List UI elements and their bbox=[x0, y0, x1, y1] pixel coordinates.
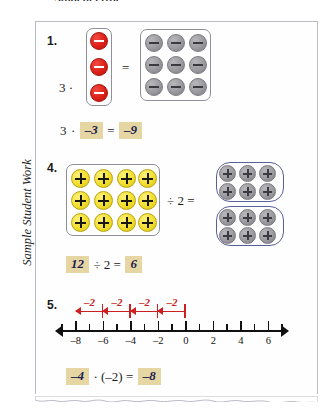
yellow-plus-counter bbox=[71, 169, 90, 188]
number-line-minor-tick bbox=[144, 324, 146, 331]
torn-edge-icon bbox=[35, 396, 318, 402]
red-minus-counter bbox=[90, 58, 108, 76]
number-line-tick-label: 4 bbox=[238, 335, 243, 346]
number-line-minor-tick bbox=[281, 324, 283, 331]
gray-plus-counter bbox=[239, 183, 256, 200]
gray-minus-counter bbox=[167, 78, 185, 96]
red-minus-counter bbox=[90, 32, 108, 50]
gray-minus-counter bbox=[167, 34, 185, 52]
yellow-plus-counter bbox=[94, 169, 113, 188]
number-line-tick-label: –4 bbox=[126, 335, 137, 346]
problem4-answer-second: 6 bbox=[125, 256, 142, 273]
gray-plus-counter bbox=[259, 209, 276, 226]
yellow-plus-counter bbox=[71, 191, 90, 210]
problem4-answer-first: 12 bbox=[66, 256, 89, 273]
number-line-minor-tick bbox=[254, 324, 256, 331]
number-line-minor-tick bbox=[89, 324, 91, 331]
number-line-major-tick bbox=[213, 321, 215, 332]
problem1-equation: 3 · –3 = –9 bbox=[60, 121, 142, 139]
jump-tail-tick bbox=[102, 304, 103, 318]
gray-minus-counter bbox=[145, 78, 163, 96]
yellow-plus-counter bbox=[138, 169, 157, 188]
gray-plus-counter bbox=[219, 227, 236, 244]
number-line-jump-label: –2 bbox=[112, 296, 123, 308]
gray-minus-counter bbox=[189, 56, 207, 74]
number-line-minor-tick bbox=[226, 324, 228, 331]
gray-minus-counter bbox=[167, 56, 185, 74]
number-line-major-tick bbox=[185, 321, 187, 332]
gray-plus-counter bbox=[219, 165, 236, 182]
gray-minus-counter bbox=[145, 34, 163, 52]
gray-plus-counter bbox=[219, 183, 236, 200]
number-line-tick-label: 2 bbox=[211, 335, 216, 346]
yellow-plus-counter bbox=[71, 213, 90, 232]
number-line-minor-tick bbox=[171, 324, 173, 331]
problem1-eq-equals: = bbox=[107, 123, 114, 138]
jump-arrowhead-icon bbox=[75, 307, 81, 315]
yellow-plus-counter bbox=[117, 213, 136, 232]
page-top-heading: Student error. bbox=[54, 0, 122, 1]
gray-plus-counter bbox=[239, 209, 256, 226]
number-line-major-tick bbox=[268, 321, 270, 332]
number-line-minor-tick bbox=[116, 324, 118, 331]
sample-student-work-caption: Sample Student Work bbox=[20, 133, 35, 293]
problem4-eq-printed: ÷ 2 = bbox=[93, 257, 120, 272]
gray-minus-counter bbox=[145, 56, 163, 74]
gray-plus-counter bbox=[259, 227, 276, 244]
number-line-jump: –2 bbox=[158, 300, 186, 316]
yellow-plus-counter bbox=[117, 191, 136, 210]
yellow-plus-counter bbox=[94, 213, 113, 232]
number-line-major-tick bbox=[130, 321, 132, 332]
problem5-equation: –4 · (–2) = –8 bbox=[66, 367, 161, 385]
yellow-plus-counter bbox=[117, 169, 136, 188]
number-line-major-tick bbox=[158, 321, 160, 332]
yellow-plus-counter bbox=[138, 213, 157, 232]
jump-tail-tick bbox=[184, 304, 185, 318]
number-line-tick-label: 6 bbox=[266, 335, 271, 346]
number-line-jump-label: –2 bbox=[139, 296, 150, 308]
jump-tail-tick bbox=[157, 304, 158, 318]
gray-plus-counter bbox=[239, 227, 256, 244]
sheet-torn-edge bbox=[35, 392, 318, 402]
problem1-left-operator: 3 · bbox=[59, 80, 73, 96]
problem5-number-line: –8–6–4–20246 –2–2–2–2 bbox=[62, 292, 282, 354]
problem5-eq-printed: · (–2) = bbox=[93, 369, 133, 384]
gray-plus-counter bbox=[259, 183, 276, 200]
problem-number-4: 4. bbox=[47, 161, 57, 175]
number-line-jump-label: –2 bbox=[84, 296, 95, 308]
number-line-major-tick bbox=[75, 321, 77, 332]
problem1-equals-sign: = bbox=[122, 60, 129, 76]
problem4-equation: 12 ÷ 2 = 6 bbox=[66, 255, 142, 273]
red-minus-counter bbox=[90, 84, 108, 102]
yellow-plus-counter bbox=[138, 191, 157, 210]
number-line-major-tick bbox=[103, 321, 105, 332]
number-line-tick-label: 0 bbox=[183, 335, 188, 346]
problem1-eq-dot: · bbox=[71, 123, 75, 138]
problem4-divide-equals-operator: ÷ 2 = bbox=[167, 193, 194, 209]
gray-plus-counter bbox=[259, 165, 276, 182]
jump-tail-tick bbox=[129, 304, 130, 318]
gray-minus-counter bbox=[189, 78, 207, 96]
number-line-tick-label: –6 bbox=[98, 335, 109, 346]
problem1-answer-first: –3 bbox=[80, 122, 103, 139]
problem-number-1: 1. bbox=[47, 34, 57, 48]
gray-plus-counter bbox=[239, 165, 256, 182]
problem-number-5: 5. bbox=[47, 298, 57, 312]
number-line-minor-tick bbox=[61, 324, 63, 331]
number-line-jump: –2 bbox=[131, 300, 159, 316]
number-line-jump: –2 bbox=[76, 300, 104, 316]
number-line-jump-label: –2 bbox=[167, 296, 178, 308]
number-line-minor-tick bbox=[199, 324, 201, 331]
number-line-jump: –2 bbox=[103, 300, 131, 316]
problem1-eq-printed-3: 3 bbox=[60, 123, 67, 138]
number-line-tick-label: –8 bbox=[71, 335, 82, 346]
problem5-answer-second: –8 bbox=[138, 368, 161, 385]
number-line-tick-label: –2 bbox=[153, 335, 164, 346]
gray-minus-counter bbox=[189, 34, 207, 52]
number-line-major-tick bbox=[240, 321, 242, 332]
problem1-answer-second: –9 bbox=[119, 122, 142, 139]
gray-plus-counter bbox=[219, 209, 236, 226]
problem5-answer-first: –4 bbox=[66, 368, 89, 385]
yellow-plus-counter bbox=[94, 191, 113, 210]
